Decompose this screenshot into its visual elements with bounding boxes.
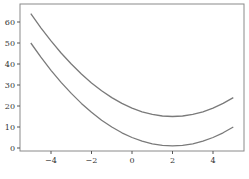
y-tick-label: 60 (5, 18, 15, 27)
x-tick-label: −4 (45, 156, 57, 165)
y-axis: 0102030405060 (5, 18, 20, 153)
x-tick-label: 2 (170, 156, 175, 165)
lower-curve-line (31, 43, 234, 146)
x-tick-label: 0 (129, 156, 134, 165)
plot-series (31, 14, 234, 146)
y-tick-label: 0 (10, 144, 15, 153)
y-tick-label: 20 (5, 102, 15, 111)
x-axis: −4−2024 (45, 151, 215, 165)
x-tick-label: −2 (86, 156, 98, 165)
plot-frame (20, 4, 244, 151)
y-tick-label: 30 (5, 81, 15, 90)
line-chart: 0102030405060 −4−2024 (0, 0, 249, 179)
y-tick-label: 10 (5, 123, 15, 132)
x-tick-label: 4 (210, 156, 215, 165)
y-tick-label: 50 (5, 39, 15, 48)
upper-curve-line (31, 14, 234, 117)
y-tick-label: 40 (5, 60, 15, 69)
